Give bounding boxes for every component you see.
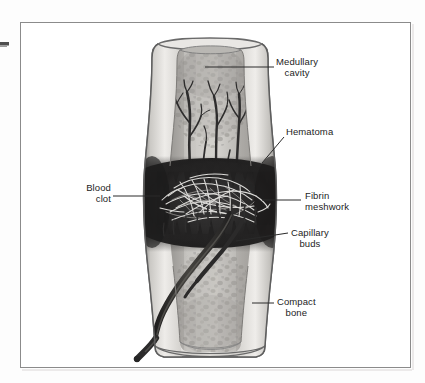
label-capillary-buds: Capillary buds	[291, 227, 329, 249]
label-line-1: Compact	[277, 296, 316, 307]
label-medullary-cavity: Medullary cavity	[276, 56, 318, 78]
label-fibrin-meshwork: Fibrin meshwork	[305, 190, 349, 212]
label-line-2: bone	[277, 307, 316, 318]
bone-fracture-illustration	[0, 0, 425, 383]
label-blood-clot: Blood clot	[79, 182, 111, 204]
label-line-2: buds	[291, 238, 329, 249]
label-line-1: Hematoma	[286, 126, 333, 137]
label-line-2: clot	[79, 193, 111, 204]
label-compact-bone: Compact bone	[277, 296, 316, 318]
label-line-2: cavity	[276, 67, 318, 78]
label-line-1: Capillary	[291, 227, 329, 238]
label-line-2: meshwork	[305, 201, 349, 212]
label-hematoma: Hematoma	[286, 126, 333, 137]
label-line-1: Blood	[86, 182, 111, 193]
label-line-1: Fibrin	[305, 190, 329, 201]
figure-root: Medullary cavity Hematoma Blood clot Fib…	[0, 0, 425, 383]
label-line-1: Medullary	[276, 56, 318, 67]
scan-edge-mark	[0, 42, 9, 47]
fracture-hematoma	[134, 156, 290, 252]
